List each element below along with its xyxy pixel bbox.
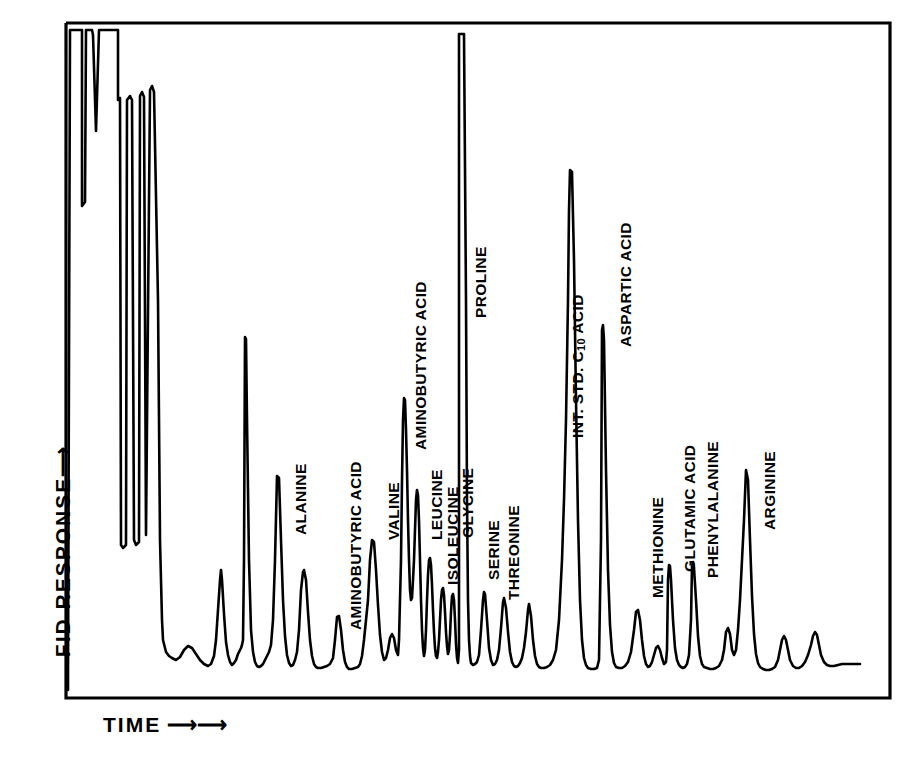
trace-group bbox=[68, 30, 860, 690]
peak-label-aminobutyric-acid-2: AMINOBUTYRIC ACID bbox=[412, 281, 430, 450]
chromatogram-figure: FID RESPONSE⟶ TIME ⟶⟶ ALANINE AMINOBUTYR… bbox=[0, 0, 908, 761]
peak-label-methionine: METHIONINE bbox=[649, 497, 667, 598]
peak-label-aminobutyric-acid-1: AMINOBUTYRIC ACID bbox=[347, 461, 365, 630]
fid-trace bbox=[68, 30, 860, 690]
peak-label-threonine: THREONINE bbox=[505, 505, 523, 600]
int-std-suffix: ACID bbox=[569, 294, 586, 338]
peak-label-valine: VALINE bbox=[385, 482, 403, 540]
peak-label-phenylalanine: PHENYLALANINE bbox=[704, 441, 722, 578]
peak-label-proline: PROLINE bbox=[472, 246, 490, 318]
int-std-prefix: INT. STD. C bbox=[569, 351, 586, 438]
chromatogram-plot bbox=[0, 0, 908, 761]
y-axis-arrow-icon: ⟶ bbox=[51, 447, 74, 477]
x-axis-arrow-icon: ⟶⟶ bbox=[161, 713, 227, 736]
y-axis-title: FID RESPONSE⟶ bbox=[51, 442, 75, 662]
peak-label-glycine: GLYCINE bbox=[459, 468, 477, 538]
peak-label-arginine: ARGININE bbox=[761, 451, 779, 530]
peak-label-glutamic-acid: GLUTAMIC ACID bbox=[681, 445, 699, 572]
peak-label-alanine: ALANINE bbox=[292, 463, 310, 535]
y-axis-label-text: FID RESPONSE bbox=[51, 477, 74, 657]
int-std-subscript: 10 bbox=[575, 338, 587, 351]
frame-border bbox=[66, 23, 890, 698]
peak-label-serine: SERINE bbox=[485, 520, 503, 580]
x-axis-title: TIME ⟶⟶ bbox=[103, 713, 227, 737]
peak-label-aspartic-acid: ASPARTIC ACID bbox=[617, 222, 635, 347]
peak-label-int-std-c10-acid: INT. STD. C10 ACID bbox=[569, 294, 587, 438]
plot-frame bbox=[66, 23, 890, 698]
x-axis-label-text: TIME bbox=[103, 713, 161, 736]
